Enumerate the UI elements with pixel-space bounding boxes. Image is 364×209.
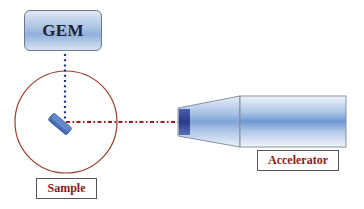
accelerator-label-box: Accelerator [257, 150, 339, 171]
gem-detector-box: GEM [24, 10, 102, 51]
gem-label: GEM [42, 21, 84, 41]
sample-label-box: Sample [36, 178, 97, 199]
diagram-canvas: GEM Sample Accelerator [0, 0, 364, 209]
accelerator-label: Accelerator [268, 153, 328, 168]
sample-label: Sample [47, 181, 85, 196]
sample-target-icon [48, 113, 72, 135]
accelerator-body [240, 96, 346, 147]
accelerator-exit-window [179, 109, 190, 135]
